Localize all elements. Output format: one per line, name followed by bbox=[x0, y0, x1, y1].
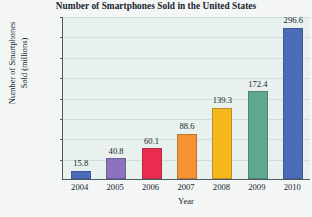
x-axis-tick-label: 2009 bbox=[240, 183, 274, 192]
y-axis-tick-labels: 4080120160200240280320 bbox=[62, 17, 310, 180]
x-axis-tick-label: 2010 bbox=[275, 183, 309, 192]
y-axis-title: Number of Smartphones Sold (millions) bbox=[7, 3, 33, 123]
x-axis-title: Year bbox=[62, 196, 310, 206]
x-axis-tick-label: 2006 bbox=[134, 183, 168, 192]
x-axis-tick-labels: 2004200520062007200820092010 bbox=[62, 183, 310, 195]
x-axis-tick-label: 2007 bbox=[169, 183, 203, 192]
x-axis-tick-label: 2005 bbox=[98, 183, 132, 192]
y-axis-title-line-1: Number of Smartphones bbox=[7, 3, 19, 123]
x-axis-tick-label: 2004 bbox=[63, 183, 97, 192]
x-axis-tick-label: 2008 bbox=[204, 183, 238, 192]
bar-chart-figure: Number of Smartphones Sold in the United… bbox=[0, 0, 312, 217]
y-axis-title-line-2: Sold (millions) bbox=[19, 3, 31, 123]
chart-title: Number of Smartphones Sold in the United… bbox=[0, 0, 312, 13]
